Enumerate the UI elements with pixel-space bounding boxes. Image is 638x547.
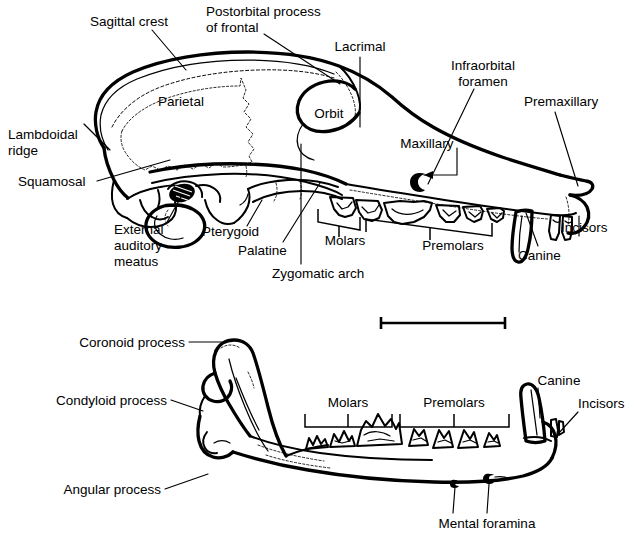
upper-premolar-1-detail: [492, 213, 502, 218]
label-mental-foramina: Mental foramina: [439, 516, 536, 531]
upper-carnassial: [384, 201, 432, 224]
label-orbit: Orbit: [314, 106, 344, 121]
lower-molar-2: [330, 431, 355, 447]
skull-panel: [95, 52, 592, 262]
label-postorbital-process-line2: of frontal: [206, 20, 259, 35]
lower-premolar-1: [484, 433, 500, 447]
pterygoid-hamulus: [240, 194, 248, 205]
skull-labels: Sagittal crest Postorbital process of fr…: [8, 4, 608, 281]
label-incisors: Incisors: [561, 220, 608, 235]
lower-premolar-2: [458, 430, 478, 448]
label-lower-premolars: Premolars: [423, 395, 485, 410]
upper-molar-1-detail: [337, 202, 352, 209]
lower-carnassial-detail: [364, 432, 390, 436]
label-maxillary: Maxillary: [400, 136, 454, 151]
scale-bar: [380, 317, 506, 329]
label-parietal: Parietal: [158, 94, 204, 109]
cropped-caption-strip: [0, 538, 638, 547]
anatomical-figure: Sagittal crest Postorbital process of fr…: [0, 0, 638, 547]
label-coronoid-process: Coronoid process: [79, 335, 185, 350]
leader-maxillary-arrowhead: [424, 171, 433, 179]
occipital-lower-edge: [112, 180, 127, 218]
label-canine: Canine: [518, 248, 561, 263]
leader-mental-foramen-1: [453, 487, 455, 513]
label-infraorbital-foramen-line1: Infraorbital: [451, 58, 515, 73]
label-squamosal: Squamosal: [18, 174, 86, 189]
skull-diagram-canvas: Sagittal crest Postorbital process of fr…: [0, 0, 638, 547]
rostrum-ventral-outline: [346, 184, 576, 215]
lower-premolar-1-detail: [488, 441, 498, 443]
label-infraorbital-foramen-line2: foramen: [458, 74, 508, 89]
mandible-labels: Coronoid process Condyloid process Angul…: [56, 335, 625, 531]
pterygoid-outline: [234, 189, 250, 223]
rostrum-dorsal-outline: [560, 175, 593, 195]
upper-premolar-3-detail: [443, 210, 456, 216]
label-lambdoidal-ridge-line1: Lambdoidal: [8, 127, 78, 142]
upper-premolar-2-detail: [469, 212, 481, 217]
upper-incisor-1: [549, 215, 560, 240]
paroccipital-process: [158, 190, 160, 207]
infraorbital-foramen: [410, 173, 425, 192]
leader-mental-foramen-2: [487, 484, 489, 513]
label-sagittal-crest: Sagittal crest: [90, 14, 168, 29]
label-mandible-incisors: Incisors: [578, 396, 625, 411]
lower-canine-ridge: [531, 390, 537, 435]
upper-carnassial-detail: [392, 209, 423, 214]
label-upper-premolars: Premolars: [422, 238, 484, 253]
leader-angular-process: [165, 474, 208, 489]
leader-mandible-incisors: [558, 412, 578, 434]
label-pterygoid: Pterygoid: [202, 224, 259, 239]
upper-molar-2-detail: [362, 205, 379, 213]
lower-premolar-3: [433, 430, 453, 448]
maxilla-body-lower: [253, 191, 342, 202]
leader-postorbital-process: [264, 34, 340, 84]
lower-molar-3: [306, 436, 328, 449]
upper-premolar-1: [487, 208, 504, 222]
angular-inner-contour: [214, 441, 230, 443]
lower-carnassial: [357, 414, 402, 446]
label-upper-molars: Molars: [325, 233, 366, 248]
lower-premolar-2-detail: [463, 440, 476, 443]
label-external-auditory-meatus-line1: External: [114, 222, 164, 237]
mandible-ventral-outline: [233, 452, 552, 482]
label-mandible-canine: Canine: [538, 373, 581, 388]
mandible-tooth-brackets: [305, 414, 509, 427]
label-premaxillary: Premaxillary: [524, 94, 599, 109]
label-postorbital-process-line1: Postorbital process: [206, 4, 321, 19]
mandible-inner-line-2: [266, 455, 330, 468]
lower-premolar-4: [409, 429, 428, 446]
zygomatic-arch-jugal-suture: [246, 166, 247, 177]
lower-premolar-3-detail: [438, 440, 451, 443]
parietal-suture: [121, 78, 254, 170]
lower-premolar-4-detail: [413, 438, 426, 441]
label-lacrimal: Lacrimal: [334, 39, 385, 54]
label-lambdoidal-ridge-line2: ridge: [8, 143, 38, 158]
leader-maxillary: [424, 148, 457, 175]
label-condyloid-process: Condyloid process: [56, 393, 167, 408]
label-external-auditory-meatus-line2: auditory: [114, 238, 162, 253]
coronoid-fossa-suture: [248, 372, 254, 388]
label-zygomatic-arch: Zygomatic arch: [272, 266, 364, 281]
label-lower-molars: Molars: [328, 395, 369, 410]
leader-condyloid-process: [171, 400, 203, 411]
condyloid-neck: [200, 396, 205, 416]
postglenoid-process: [205, 200, 234, 224]
upper-canine-ridge: [519, 216, 522, 252]
upper-premolar-3: [436, 205, 460, 222]
label-palatine: Palatine: [238, 243, 287, 258]
lower-carnassial-detail-2: [368, 439, 394, 441]
lower-molar-2-detail: [335, 441, 350, 443]
upper-molar-1: [330, 197, 356, 217]
label-external-auditory-meatus-line3: meatus: [114, 254, 159, 269]
label-angular-process: Angular process: [63, 482, 161, 497]
lower-tooth-row: [306, 384, 564, 449]
coronoid-tip-suture: [221, 345, 240, 348]
lower-canine: [521, 384, 545, 443]
palatine-suture: [274, 183, 277, 201]
